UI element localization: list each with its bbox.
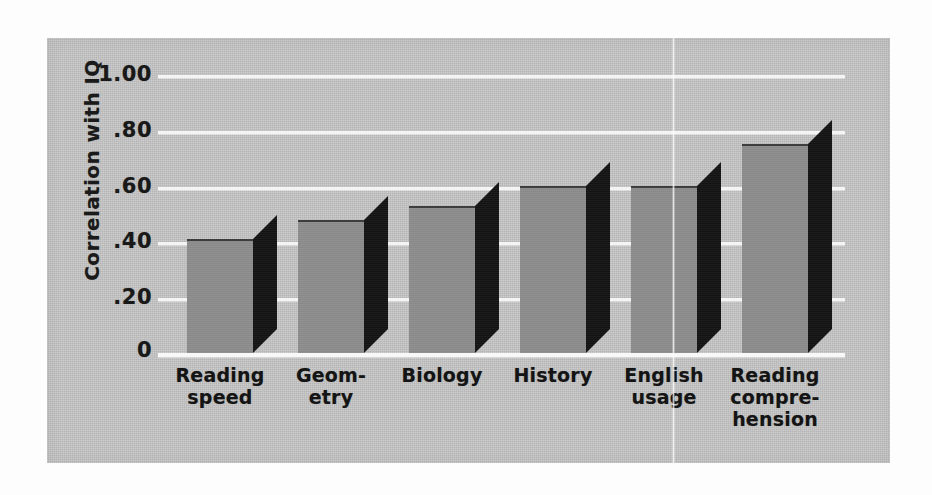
xtick-label-biology: Biology: [387, 365, 497, 387]
plot-area: 1.00 .80 .60 .40 .20 0 Correlation with …: [47, 38, 890, 463]
gridline-1.00: [158, 75, 845, 78]
xtick-label-line: English: [609, 365, 719, 387]
xtick-label-line: Reading: [165, 365, 275, 387]
bar-front-face: [409, 206, 475, 353]
chart-panel: 1.00 .80 .60 .40 .20 0 Correlation with …: [47, 38, 890, 463]
xtick-label-line: Geom-: [276, 365, 386, 387]
y-axis-title: Correlation with IQ: [80, 45, 104, 295]
bar-biology: [409, 182, 499, 353]
bar-front-face: [187, 239, 253, 353]
bar-side-face: [808, 120, 832, 353]
xtick-label-line: etry: [276, 387, 386, 409]
xtick-label-line: hension: [720, 409, 830, 431]
bar-front-face: [742, 144, 808, 353]
xtick-label-history: History: [498, 365, 608, 387]
bar-side-face: [364, 196, 388, 353]
bar-side-face: [475, 182, 499, 353]
bar-geometry: [298, 196, 388, 353]
xtick-label-line: usage: [609, 387, 719, 409]
bar-reading-comprehension: [742, 120, 832, 353]
bar-history: [520, 162, 610, 353]
bar-front-face: [631, 186, 697, 353]
xtick-label-line: Reading: [720, 365, 830, 387]
bar-reading-speed: [187, 215, 277, 353]
bar-side-face: [253, 215, 277, 353]
ytick-label-0: 0: [78, 340, 152, 361]
xtick-label-line: Biology: [387, 365, 497, 387]
bar-english-usage: [631, 162, 721, 353]
xtick-label-reading-comprehension: Readingcompre-hension: [720, 365, 830, 431]
xtick-label-reading-speed: Readingspeed: [165, 365, 275, 409]
bar-front-face: [520, 186, 586, 353]
xtick-label-line: History: [498, 365, 608, 387]
xtick-label-english-usage: Englishusage: [609, 365, 719, 409]
bar-front-face: [298, 220, 364, 353]
bar-side-face: [697, 162, 721, 353]
xtick-label-geometry: Geom-etry: [276, 365, 386, 409]
bar-side-face: [586, 162, 610, 353]
figure-page: 1.00 .80 .60 .40 .20 0 Correlation with …: [0, 0, 932, 495]
xtick-label-line: speed: [165, 387, 275, 409]
gridline-baseline-0: [158, 353, 845, 357]
xtick-label-line: compre-: [720, 387, 830, 409]
